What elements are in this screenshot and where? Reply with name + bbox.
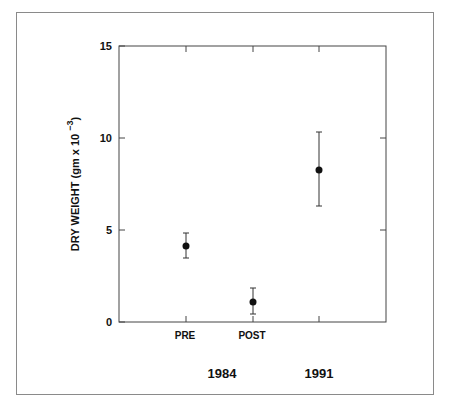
svg-text:DRY WEIGHT (gm x 10 −3): DRY WEIGHT (gm x 10 −3): [65, 116, 81, 251]
data-point-1991: [316, 167, 323, 174]
x-ticks-top: [186, 46, 319, 52]
y-tick-label-15: 15: [100, 40, 112, 52]
x-label-post: POST: [238, 330, 265, 341]
y-tick-label-10: 10: [100, 132, 112, 144]
y-axis-label-exponent: −3: [65, 120, 75, 130]
x-label-pre: PRE: [175, 330, 196, 341]
y-axis-label-main: DRY WEIGHT (gm x 10: [69, 131, 81, 251]
y-ticks-right: [380, 138, 386, 230]
y-ticks-left: [119, 46, 125, 322]
x-ticks-bottom: [186, 316, 319, 322]
y-axis-label-end: ): [69, 116, 81, 120]
plot-area: [119, 46, 386, 322]
data-point-pre: [183, 243, 190, 250]
chart: 0 5 10 15 DRY WEIGHT (gm x 10 −3) PRE PO…: [0, 0, 449, 410]
y-tick-label-5: 5: [106, 224, 112, 236]
y-tick-label-0: 0: [106, 316, 112, 328]
y-axis-label: DRY WEIGHT (gm x 10 −3): [65, 116, 81, 251]
group-label-1984: 1984: [208, 366, 238, 381]
group-label-1991: 1991: [305, 366, 334, 381]
data-point-post: [250, 299, 257, 306]
